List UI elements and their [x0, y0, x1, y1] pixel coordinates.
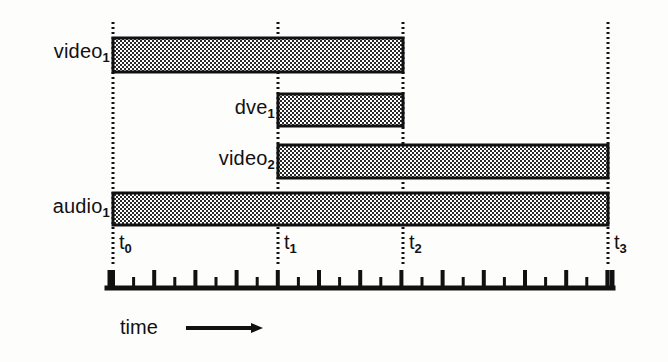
track-label-video2-sub: 2: [268, 157, 275, 172]
time-marker-t2: t2: [409, 231, 422, 254]
time-marker-t3-sub: 3: [620, 241, 627, 256]
time-marker-t0: t0: [119, 231, 132, 254]
track-label-video1-sub: 1: [103, 50, 110, 65]
time-marker-t3-base: t: [614, 231, 620, 253]
bar-audio1: [113, 193, 608, 225]
track-label-dve1-base: dve: [235, 96, 268, 118]
track-label-video1-base: video: [54, 40, 103, 62]
time-marker-t1-sub: 1: [290, 241, 297, 256]
track-label-video1: video1: [54, 40, 110, 63]
time-marker-t0-sub: 0: [125, 241, 132, 256]
track-label-audio1-base: audio: [53, 195, 103, 217]
track-label-audio1-sub: 1: [103, 205, 110, 220]
track-label-dve1: dve1: [235, 96, 275, 119]
time-axis: [107, 270, 613, 288]
time-marker-t0-base: t: [119, 231, 125, 253]
axis-caption-time: time: [120, 316, 158, 339]
time-marker-t2-sub: 2: [415, 241, 422, 256]
bar-video2: [278, 145, 608, 178]
time-marker-t2-base: t: [409, 231, 415, 253]
time-marker-t1: t1: [284, 231, 297, 254]
time-marker-t1-base: t: [284, 231, 290, 253]
timeline-figure: video1 dve1 video2 audio1 t0 t1 t2 t3 ti…: [0, 0, 668, 362]
media-bars: [113, 38, 608, 225]
track-label-video2: video2: [219, 147, 275, 170]
track-label-dve1-sub: 1: [268, 106, 275, 121]
track-label-video2-base: video: [219, 147, 268, 169]
axis-ticks: [110, 270, 612, 286]
bar-video1: [113, 38, 403, 72]
bar-dve1: [278, 94, 403, 126]
track-label-audio1: audio1: [53, 195, 110, 218]
time-marker-t3: t3: [614, 231, 627, 254]
